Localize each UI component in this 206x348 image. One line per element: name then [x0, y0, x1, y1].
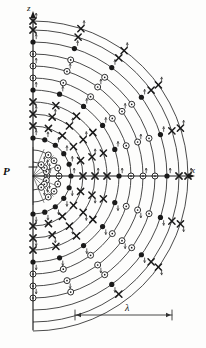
filled-circle-marker	[109, 65, 114, 70]
arrow-tick-marker	[161, 77, 163, 81]
cross-marker	[59, 213, 65, 219]
arrow-tick-marker	[100, 268, 102, 272]
arrow-tick-marker	[169, 168, 171, 172]
cross-marker	[77, 188, 83, 194]
cross-marker	[70, 202, 76, 208]
arrow-tick-marker	[105, 230, 107, 234]
filled-circle-marker	[42, 210, 47, 215]
arrow-tick-marker	[94, 198, 96, 202]
arrow-tick-marker	[86, 99, 88, 103]
cross-marker	[49, 114, 55, 120]
circle-dot-center	[121, 110, 123, 112]
circle-dot-center	[90, 96, 92, 98]
arrow-tick-marker	[86, 216, 88, 220]
arrow-tick-marker	[117, 142, 119, 146]
cross-marker	[80, 136, 86, 142]
circle-dot-center	[43, 183, 45, 185]
circle-dot-center	[40, 164, 42, 166]
filled-circle-marker	[112, 147, 117, 152]
arrow-tick-marker	[47, 215, 49, 219]
arrow-tick-marker	[47, 132, 49, 136]
cross-marker	[53, 243, 59, 249]
arrow-tick-marker	[124, 244, 126, 248]
filled-circle-marker	[67, 162, 72, 167]
cross-marker	[148, 87, 154, 93]
arrow-tick-marker	[105, 118, 107, 122]
circle-dot-center	[45, 179, 47, 181]
arrow-tick-marker	[86, 132, 88, 136]
arrow-tick-marker	[83, 21, 85, 25]
arrow-tick-marker	[35, 82, 37, 86]
circle-dot-center	[45, 171, 47, 173]
circle-dot-center	[43, 167, 45, 169]
cross-marker	[59, 132, 65, 138]
cross-marker	[66, 123, 72, 129]
arrow-tick-marker	[35, 241, 37, 245]
source-point-label: P	[3, 166, 10, 177]
circle-dot-center	[47, 154, 49, 156]
circle-dot-center	[148, 137, 150, 139]
filled-circle-marker	[100, 224, 105, 229]
cross-marker	[89, 154, 95, 160]
filled-circle-marker	[81, 243, 86, 248]
circle-dot-center	[111, 233, 113, 235]
arrow-tick-marker	[121, 168, 123, 172]
arrow-tick-marker	[66, 146, 68, 150]
arrow-tick-marker	[86, 249, 88, 253]
cross-marker	[66, 223, 72, 229]
arrow-tick-marker	[35, 13, 37, 17]
cross-marker	[77, 157, 83, 163]
circle-dot-center	[53, 160, 55, 162]
cross-marker	[49, 232, 55, 238]
arrow-tick-marker	[35, 106, 37, 110]
arrow-tick-marker	[69, 64, 71, 68]
arrow-tick-marker	[97, 168, 99, 172]
arrow-tick-marker	[124, 104, 126, 108]
arrow-tick-marker	[66, 202, 68, 206]
circle-dot-center	[40, 186, 42, 188]
circle-dot-center	[104, 76, 106, 78]
arrow-tick-marker	[94, 149, 96, 153]
arrow-tick-marker	[62, 87, 64, 91]
marker-group	[30, 13, 192, 301]
arrow-tick-marker	[140, 213, 142, 217]
filled-circle-marker	[53, 204, 58, 209]
circle-dot-center	[137, 209, 139, 211]
z-axis-label: z	[27, 4, 31, 13]
circle-dot-center	[62, 268, 64, 270]
filled-circle-marker	[57, 255, 62, 260]
arrow-tick-marker	[145, 168, 147, 172]
wavelength-label: λ	[123, 303, 131, 313]
arrow-tick-marker	[144, 258, 146, 262]
circle-dot-center	[104, 274, 106, 276]
circle-dot-center	[57, 183, 59, 185]
cross-marker	[78, 25, 84, 31]
filled-circle-marker	[61, 196, 66, 201]
arrow-tick-marker	[77, 41, 79, 45]
cross-marker	[70, 144, 76, 150]
filled-circle-marker	[112, 200, 117, 205]
filled-circle-marker	[139, 252, 144, 257]
circle-dot-center	[70, 59, 72, 61]
arrow-tick-marker	[72, 191, 74, 195]
arrow-tick-marker	[163, 221, 165, 225]
filled-circle-marker	[57, 92, 62, 97]
arrow-tick-marker	[140, 134, 142, 138]
arrow-tick-marker	[144, 90, 146, 94]
filled-circle-marker	[61, 151, 66, 156]
arrow-tick-marker	[35, 289, 37, 293]
arrow-tick-marker	[44, 191, 46, 195]
circle-dot-center	[137, 141, 139, 143]
cross-marker	[177, 221, 183, 227]
arrow-tick-marker	[49, 164, 51, 168]
arrow-tick-marker	[55, 109, 57, 113]
circle-dot-center	[57, 167, 59, 169]
scale-bar-arrow-right	[166, 313, 171, 318]
arrow-tick-marker	[163, 127, 165, 131]
cross-marker	[100, 196, 106, 202]
cross-marker	[73, 113, 79, 119]
cross-marker	[89, 192, 95, 198]
arrow-tick-marker	[49, 184, 51, 188]
cross-marker	[75, 34, 81, 40]
filled-circle-marker	[158, 215, 163, 220]
